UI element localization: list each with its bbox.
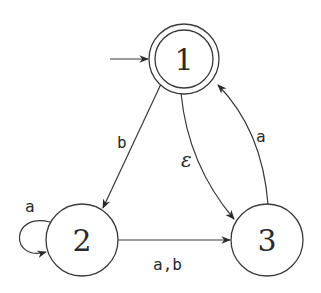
edge-label-2-to-3: a,b — [153, 255, 182, 274]
state-3: 3 — [231, 204, 303, 276]
edge-label-3-to-1: a — [256, 127, 266, 146]
edge-label-1-to-3: ε — [181, 148, 192, 172]
edge-1-to-2 — [103, 84, 161, 208]
state-1: 1 — [149, 24, 219, 94]
edge-label-2-self: a — [25, 197, 35, 216]
state-2-label: 2 — [72, 223, 91, 258]
automaton-diagram: b ε a a a,b 1 2 3 — [0, 0, 321, 293]
state-1-label: 1 — [174, 42, 193, 77]
edge-label-1-to-2: b — [117, 133, 127, 152]
edge-2-self-loop — [19, 221, 50, 254]
state-2: 2 — [46, 204, 118, 276]
state-3-label: 3 — [257, 223, 276, 258]
